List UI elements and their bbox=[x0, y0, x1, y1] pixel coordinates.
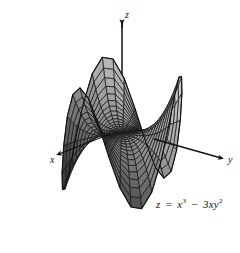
surface-cell bbox=[127, 155, 134, 160]
z-axis-label: z bbox=[125, 10, 129, 20]
equation-term2-exponent: 2 bbox=[219, 197, 223, 205]
surface-cell bbox=[129, 179, 139, 188]
figure-root: z y x z = x3 − 3xy2 bbox=[0, 0, 240, 253]
equation-term2-vars: xy bbox=[209, 198, 219, 210]
y-axis-label: y bbox=[228, 155, 232, 165]
surface-cell bbox=[128, 165, 137, 172]
equation-label: z = x3 − 3xy2 bbox=[156, 198, 223, 210]
surface-cell bbox=[127, 151, 134, 155]
surface-cell bbox=[128, 160, 136, 166]
equation-equals: = bbox=[164, 198, 175, 210]
equation-minus: − bbox=[189, 198, 200, 210]
surface-cell bbox=[126, 147, 132, 151]
surface-cell bbox=[129, 172, 138, 180]
surface-cell bbox=[105, 78, 115, 87]
surface-plot-canvas bbox=[0, 0, 240, 253]
equation-term1-exponent: 3 bbox=[182, 197, 186, 205]
x-axis-label: x bbox=[50, 155, 54, 165]
equation-lhs: z bbox=[156, 198, 161, 210]
surface-cell bbox=[103, 68, 114, 79]
surface-cell bbox=[130, 187, 141, 198]
